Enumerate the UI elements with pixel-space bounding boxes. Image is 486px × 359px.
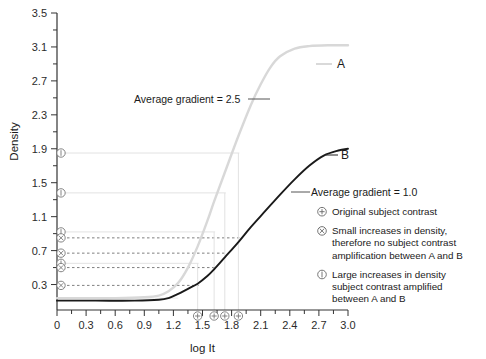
legend-item-line: between A and B	[332, 293, 406, 304]
annotation-gradient-b: Average gradient = 1.0	[311, 186, 418, 198]
marker-large-increase	[57, 189, 65, 197]
y-tick-label: 1.1	[32, 211, 47, 223]
y-tick-label: 0.7	[32, 245, 47, 257]
circled-plus-icon	[318, 207, 327, 216]
y-tick-label: 1.5	[32, 177, 47, 189]
legend-item-line: Original subject contrast	[332, 206, 437, 217]
x-tick-label: 1.2	[166, 319, 181, 331]
x-tick-label: 0.6	[108, 319, 123, 331]
marker-original-contrast	[193, 312, 201, 320]
y-tick-label: 2.3	[32, 109, 47, 121]
marker-original-contrast	[210, 312, 218, 320]
marker-original-contrast	[234, 312, 242, 320]
x-tick-label: 2.7	[311, 319, 326, 331]
curve-label-a: A	[337, 57, 345, 71]
x-tick-label: 0	[54, 319, 60, 331]
y-tick-label: 1.9	[32, 143, 47, 155]
x-tick-label: 3.0	[340, 319, 355, 331]
legend-item-line: amplification between A and B	[332, 250, 463, 261]
marker-small-increase	[57, 234, 65, 242]
y-tick-label: 0.3	[32, 279, 47, 291]
x-tick-label: 2.1	[253, 319, 268, 331]
legend-item-line: subject contrast amplified	[332, 281, 443, 292]
y-axis-tick-labels: 0.30.71.11.51.92.32.73.13.5	[32, 7, 47, 291]
x-tick-label: 0.3	[78, 319, 93, 331]
chart-background	[0, 0, 486, 359]
legend-item-line: therefore no subject contrast	[332, 237, 456, 248]
circled-times-icon	[318, 227, 327, 236]
annotation-gradient-a: Average gradient = 2.5	[134, 93, 241, 105]
curve-label-b: B	[341, 148, 349, 162]
legend-item: Small increases in density,therefore no …	[318, 225, 463, 260]
legend-item-line: Large increases in density	[332, 269, 446, 280]
x-tick-label: 2.4	[282, 319, 297, 331]
marker-large-increase	[57, 149, 65, 157]
legend-item-line: Small increases in density,	[332, 225, 447, 236]
x-axis-title: log It	[190, 342, 216, 354]
chart-figure: 00.30.60.91.21.51.82.12.42.73.0 0.30.71.…	[0, 0, 486, 359]
y-tick-label: 3.5	[32, 7, 47, 19]
y-tick-label: 2.7	[32, 75, 47, 87]
y-tick-label: 3.1	[32, 41, 47, 53]
marker-small-increase	[57, 263, 65, 271]
marker-small-increase	[57, 281, 65, 289]
legend-item: Original subject contrast	[318, 206, 438, 217]
x-tick-label: 0.9	[137, 319, 152, 331]
characteristic-curve-chart: 00.30.60.91.21.51.82.12.42.73.0 0.30.71.…	[0, 0, 486, 359]
circled-bar-icon	[318, 270, 327, 279]
x-tick-label: 1.8	[224, 319, 239, 331]
marker-small-increase	[57, 249, 65, 257]
y-axis-title: Density	[8, 122, 20, 161]
marker-original-contrast	[221, 312, 229, 320]
x-tick-label: 1.5	[195, 319, 210, 331]
